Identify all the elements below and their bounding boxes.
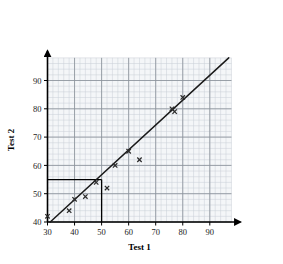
y-tick-label: 60 (33, 161, 42, 171)
y-axis-title: Test 2 (6, 128, 16, 151)
x-tick-label: 80 (179, 227, 188, 237)
y-tick-label: 80 (33, 104, 42, 114)
x-axis-title: Test 1 (128, 242, 151, 252)
x-tick-label: 90 (206, 227, 215, 237)
x-tick-label: 50 (97, 227, 106, 237)
chart-canvas: 30405060708090405060708090Test 1Test 2 (0, 0, 283, 264)
y-tick-label: 70 (33, 132, 42, 142)
x-tick-label: 40 (70, 227, 79, 237)
y-tick-label: 40 (33, 217, 42, 227)
y-tick-label: 90 (33, 76, 42, 86)
x-tick-label: 30 (43, 227, 52, 237)
y-tick-label: 50 (33, 189, 42, 199)
x-tick-label: 70 (151, 227, 160, 237)
x-tick-label: 60 (124, 227, 133, 237)
scatter-plot-chart: 30405060708090405060708090Test 1Test 2 (0, 0, 283, 264)
